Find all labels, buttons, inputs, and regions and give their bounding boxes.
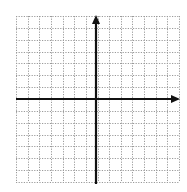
- coordinate-plane: [0, 0, 187, 192]
- x-axis-arrow-icon: [171, 95, 180, 103]
